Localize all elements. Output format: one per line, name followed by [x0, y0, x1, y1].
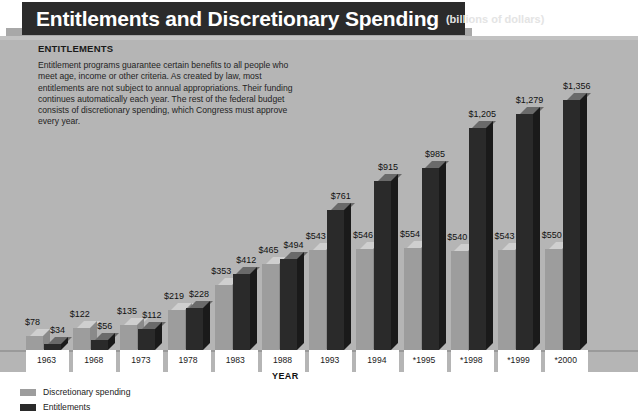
- legend-swatch-entitlements: [20, 404, 36, 411]
- x-axis-label-1968: 1968: [67, 355, 121, 365]
- bar-value-label: $228: [178, 289, 220, 299]
- x-axis-label-1963: 1963: [20, 355, 74, 365]
- bar-entitlements-1963: [44, 344, 61, 350]
- bar-front-face: [26, 336, 43, 350]
- x-axis-label-1978: 1978: [161, 355, 215, 365]
- x-axis-title: YEAR: [272, 371, 299, 381]
- bar-entitlements-1968: [91, 340, 108, 350]
- bar-value-label: $1,279: [509, 95, 551, 105]
- bar-value-label: $56: [84, 321, 126, 331]
- legend-swatch-discretionary: [20, 389, 36, 396]
- bar-value-label: $122: [59, 309, 101, 319]
- bar-discretionary-1988: [262, 264, 279, 350]
- bar-top-face: [378, 174, 402, 181]
- chart-units: (billions of dollars): [446, 13, 544, 25]
- bar-value-label: $543: [295, 231, 337, 241]
- x-axis-label-2000: *2000: [539, 355, 593, 365]
- bar-value-label: $1,356: [556, 81, 598, 91]
- bar-value-label: $761: [320, 191, 362, 201]
- x-axis-label-1998: *1998: [444, 355, 498, 365]
- bar-top-face: [142, 322, 166, 329]
- bar-front-face: [44, 344, 61, 350]
- bar-front-face: [309, 250, 326, 350]
- x-axis-label-1994: 1994: [350, 355, 404, 365]
- bar-value-label: $494: [273, 240, 315, 250]
- bar-entitlements-1978: [186, 308, 203, 350]
- bar-side-face: [250, 267, 257, 350]
- chart-page: Entitlements and Discretionary Spending …: [0, 0, 638, 419]
- bar-front-face: [91, 340, 108, 350]
- bar-entitlements-1973: [138, 329, 155, 350]
- bar-side-face: [580, 93, 587, 350]
- bar-front-face: [186, 308, 203, 350]
- bar-discretionary-1994: [356, 249, 373, 350]
- bar-entitlements-1988: [280, 259, 297, 350]
- bar-front-face: [545, 249, 562, 350]
- bar-value-label: $554: [389, 229, 431, 239]
- bar-top-face: [95, 333, 119, 340]
- x-axis-label-1995: *1995: [397, 355, 451, 365]
- bar-front-face: [280, 259, 297, 350]
- bar-value-label: $353: [200, 266, 242, 276]
- legend-item-discretionary: Discretionary spending: [20, 387, 130, 397]
- bar-discretionary-2000: [545, 249, 562, 350]
- bar-front-face: [422, 168, 439, 350]
- bar-entitlements-2000: [563, 100, 580, 350]
- bar-discretionary-1995: [404, 248, 421, 350]
- bar-front-face: [404, 248, 421, 350]
- x-axis-label-1983: 1983: [208, 355, 262, 365]
- legend-label-discretionary: Discretionary spending: [43, 387, 130, 397]
- bar-value-label: $412: [225, 255, 267, 265]
- bar-side-face: [391, 174, 398, 350]
- bar-discretionary-1963: [26, 336, 43, 350]
- plot-area: $78$34$122$56$135$112$219$228$353$412$46…: [0, 36, 638, 372]
- bar-value-label: $112: [131, 310, 173, 320]
- bar-side-face: [155, 322, 162, 350]
- bar-value-label: $1,205: [461, 109, 503, 119]
- bar-front-face: [138, 329, 155, 350]
- bar-side-face: [344, 203, 351, 350]
- bar-front-face: [563, 100, 580, 350]
- bar-front-face: [233, 274, 250, 350]
- chart-title-band: Entitlements and Discretionary Spending …: [22, 2, 465, 35]
- chart-legend: Discretionary spending Entitlements: [20, 387, 130, 417]
- bar-value-label: $915: [367, 162, 409, 172]
- bar-value-label: $543: [484, 231, 526, 241]
- bar-side-face: [203, 301, 210, 350]
- bar-discretionary-1998: [451, 251, 468, 351]
- bar-value-label: $546: [342, 230, 384, 240]
- bar-value-label: $540: [436, 232, 478, 242]
- x-axis-label-1988: 1988: [256, 355, 310, 365]
- x-axis-label-1973: 1973: [114, 355, 168, 365]
- bar-side-face: [439, 161, 446, 350]
- bar-front-face: [451, 251, 468, 351]
- x-axis-label-1993: 1993: [303, 355, 357, 365]
- bar-front-face: [498, 250, 515, 350]
- bar-top-face: [331, 203, 355, 210]
- chart-title: Entitlements and Discretionary Spending: [36, 7, 439, 31]
- bar-entitlements-1995: [422, 168, 439, 350]
- bar-entitlements-1994: [374, 181, 391, 350]
- bar-entitlements-1983: [233, 274, 250, 350]
- bar-value-label: $985: [414, 149, 456, 159]
- bar-side-face: [533, 107, 540, 350]
- x-axis-label-1999: *1999: [492, 355, 546, 365]
- bar-value-label: $34: [37, 325, 79, 335]
- bar-front-face: [374, 181, 391, 350]
- bar-value-label: $550: [531, 230, 573, 240]
- bar-front-face: [262, 264, 279, 350]
- legend-item-entitlements: Entitlements: [20, 402, 130, 412]
- bar-top-face: [567, 93, 591, 100]
- legend-label-entitlements: Entitlements: [43, 402, 90, 412]
- bar-discretionary-1993: [309, 250, 326, 350]
- bar-front-face: [356, 249, 373, 350]
- bar-discretionary-1999: [498, 250, 515, 350]
- bar-side-face: [297, 252, 304, 350]
